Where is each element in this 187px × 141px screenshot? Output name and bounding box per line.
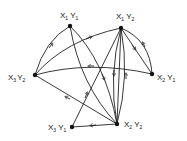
label-x1y1: X1Y1 bbox=[60, 11, 78, 21]
node-x1y1 bbox=[68, 24, 72, 28]
edge-x3y2-x1y1 bbox=[35, 26, 70, 75]
label-x3y2: X3Y2 bbox=[8, 73, 25, 83]
directed-graph: X1Y1 X1Y2 X3Y2 X2Y1 X3Y1 X2Y2 bbox=[0, 0, 187, 141]
edge-x2y1-x3y2 bbox=[35, 67, 152, 75]
edge-x2y2-x3y2 bbox=[35, 75, 117, 124]
node-x3y2 bbox=[33, 73, 37, 77]
label-x2y1: X2Y1 bbox=[157, 73, 175, 83]
label-x3y1: X3Y1 bbox=[48, 123, 66, 133]
node-x2y1 bbox=[150, 72, 154, 76]
label-x1y2: X1Y2 bbox=[116, 12, 134, 22]
edge-x1y1-x2y2-b bbox=[70, 26, 117, 124]
node-x3y1 bbox=[70, 125, 74, 129]
edge-x1y1-x2y2-a bbox=[70, 26, 117, 124]
edges bbox=[35, 26, 152, 127]
node-x2y2 bbox=[115, 122, 119, 126]
label-x2y2: X2Y2 bbox=[124, 120, 142, 130]
edge-x1y2-x2y1 bbox=[121, 28, 152, 74]
nodes bbox=[33, 24, 154, 129]
node-x1y2 bbox=[119, 26, 123, 30]
